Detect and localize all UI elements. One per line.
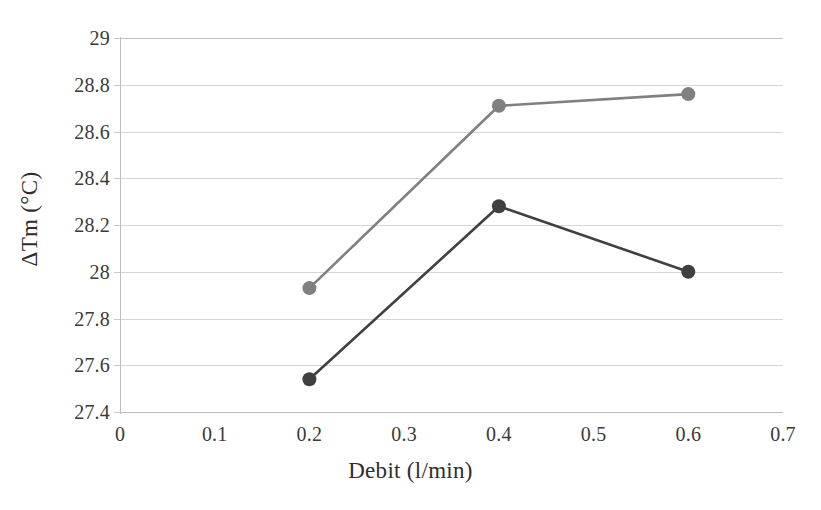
x-tick-label: 0.5 xyxy=(581,424,607,444)
y-tick-mark xyxy=(114,412,120,413)
y-axis-title: ΔTm (°C) xyxy=(17,119,43,319)
y-tick-mark xyxy=(114,85,120,86)
y-tick-mark xyxy=(114,38,120,39)
x-tick-label: 0.6 xyxy=(675,424,701,444)
x-tick-label: 0.1 xyxy=(202,424,228,444)
x-tick-label: 0.3 xyxy=(391,424,417,444)
y-tick-mark xyxy=(114,319,120,320)
chart-container: 27.427.627.82828.228.428.628.829 00.10.2… xyxy=(0,0,821,510)
y-tick-mark xyxy=(114,225,120,226)
y-tick-mark xyxy=(114,272,120,273)
x-axis-title: Debit (l/min) xyxy=(0,458,821,484)
y-tick-mark xyxy=(114,365,120,366)
x-tick-label: 0 xyxy=(115,424,125,444)
x-axis-tick-labels: 00.10.20.30.40.50.60.7 xyxy=(0,0,821,510)
x-tick-label: 0.7 xyxy=(770,424,796,444)
x-tick-label: 0.2 xyxy=(297,424,323,444)
y-tick-mark xyxy=(114,132,120,133)
x-tick-label: 0.4 xyxy=(486,424,512,444)
y-tick-mark xyxy=(114,178,120,179)
